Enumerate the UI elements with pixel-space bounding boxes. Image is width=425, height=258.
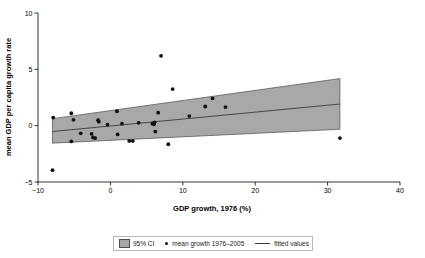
data-point	[153, 130, 157, 134]
legend-item: mean growth 1976–2005	[163, 240, 244, 247]
chart-container: −10010203040−50510 GDP growth, 1976 (%) …	[0, 0, 425, 258]
legend-item-label: 95% CI	[133, 240, 154, 247]
data-point	[93, 136, 97, 140]
legend-item-label: mean growth 1976–2005	[172, 240, 244, 247]
data-point	[69, 111, 73, 115]
y-tick-label: −5	[25, 179, 33, 186]
data-point	[171, 87, 175, 91]
x-axis-title: GDP growth, 1976 (%)	[173, 204, 251, 213]
scatter-plot: −10010203040−50510 GDP growth, 1976 (%) …	[0, 0, 425, 215]
x-tick-label: 20	[251, 187, 259, 194]
data-point	[211, 97, 215, 101]
legend-item: fitted values	[253, 240, 309, 247]
data-point	[90, 132, 94, 136]
legend-point-swatch	[165, 242, 168, 245]
data-point	[131, 139, 135, 143]
x-tick-label: 0	[108, 187, 112, 194]
data-point	[203, 105, 207, 109]
x-tick-label: 40	[396, 187, 404, 194]
x-tick-label: −10	[32, 187, 44, 194]
chart-legend: 95% CImean growth 1976–2005fitted values	[113, 236, 313, 251]
y-tick-label: 10	[25, 10, 33, 17]
data-point	[115, 109, 119, 113]
data-point	[120, 122, 124, 126]
data-point	[106, 123, 110, 127]
data-point	[159, 54, 163, 58]
data-point	[187, 114, 191, 118]
legend-item: 95% CI	[119, 239, 154, 248]
data-point	[127, 139, 131, 143]
data-point	[116, 133, 120, 137]
y-tick-label: 5	[29, 66, 33, 73]
y-tick-label: 0	[29, 122, 33, 129]
data-point	[51, 116, 55, 120]
data-point	[79, 131, 83, 135]
data-point	[153, 120, 157, 124]
data-point	[97, 120, 101, 124]
data-point	[166, 142, 170, 146]
legend-line-swatch	[255, 243, 270, 244]
data-point	[51, 168, 55, 172]
data-point	[72, 118, 76, 122]
data-point	[137, 121, 141, 125]
ci-band-group	[52, 79, 339, 144]
data-point	[69, 140, 73, 144]
x-tick-label: 30	[324, 187, 332, 194]
y-axis-title: mean GDP per capita growth rate	[4, 38, 13, 156]
data-point	[338, 136, 342, 140]
ci-band-95	[52, 79, 339, 144]
data-point	[156, 111, 160, 115]
legend-ci-swatch	[119, 239, 130, 248]
x-tick-label: 10	[179, 187, 187, 194]
legend-item-label: fitted values	[274, 240, 309, 247]
data-point	[224, 105, 228, 109]
